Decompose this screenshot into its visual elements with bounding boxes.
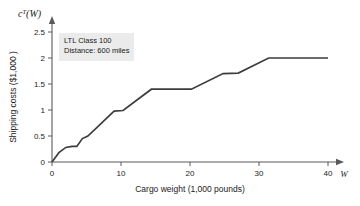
x-tick-label-1: 10: [117, 169, 126, 178]
annotation-line-class: LTL Class 100: [64, 36, 129, 46]
x-tick-label-3: 30: [255, 169, 264, 178]
y-axis-arrow-icon: [49, 16, 55, 24]
x-axis-variable-label: W: [340, 169, 349, 179]
x-tick-marks: [52, 162, 328, 166]
y-axis-symbol-label: cT(W): [18, 8, 42, 20]
y-tick-marks: [48, 32, 52, 162]
x-axis-arrow-icon: [336, 159, 344, 165]
y-tick-label-4: 2: [41, 54, 46, 63]
x-axis: [52, 159, 344, 165]
x-tick-label-4: 40: [324, 169, 333, 178]
y-tick-label-0: 0: [41, 158, 46, 167]
x-axis-title: Cargo weight (1,000 pounds): [135, 184, 245, 194]
y-axis: [49, 16, 55, 162]
ltl-class-annotation: LTL Class 100 Distance: 600 miles: [59, 33, 134, 61]
x-tick-label-0: 0: [50, 169, 55, 178]
cost-function-curve: [52, 58, 328, 162]
y-axis-symbol-argument: (W): [26, 8, 42, 20]
y-tick-label-1: 0.5: [34, 132, 46, 141]
annotation-line-distance: Distance: 600 miles: [64, 46, 129, 56]
y-tick-labels: 0 0.5 1 1.5 2 2.5: [34, 28, 46, 167]
chart-figure: 0 0.5 1 1.5 2 2.5 0 10 20 30 40 W cT(W) …: [0, 0, 360, 206]
chart-plot-area: 0 0.5 1 1.5 2 2.5 0 10 20 30 40 W cT(W) …: [0, 0, 360, 206]
x-tick-label-2: 20: [186, 169, 195, 178]
y-tick-label-2: 1: [41, 106, 46, 115]
x-tick-labels: 0 10 20 30 40: [50, 169, 333, 178]
y-tick-label-3: 1.5: [34, 80, 46, 89]
y-axis-title: Shipping costs ($1,000 ): [8, 51, 18, 143]
y-tick-label-5: 2.5: [34, 28, 46, 37]
